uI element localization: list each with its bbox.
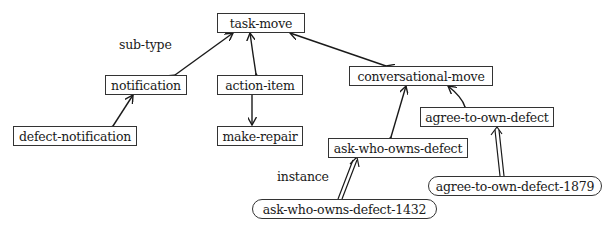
node-task-move[interactable]: task-move xyxy=(217,13,305,33)
edge-instance-1879 xyxy=(495,130,504,176)
edge-instance-1432 xyxy=(338,160,357,199)
subtype-label: sub-type xyxy=(119,37,172,52)
node-make-repair[interactable]: make-repair xyxy=(217,126,303,146)
edge-defect-notification-notification xyxy=(113,95,133,126)
node-notification[interactable]: notification xyxy=(105,75,187,95)
node-ask-who-owns-defect[interactable]: ask-who-owns-defect xyxy=(328,138,468,158)
node-action-item[interactable]: action-item xyxy=(217,75,303,95)
edge-conversational-move-task-move xyxy=(290,33,386,66)
node-agree-to-own-defect[interactable]: agree-to-own-defect xyxy=(420,107,554,127)
edge-action-item-task-move xyxy=(250,33,256,74)
node-conversational-move[interactable]: conversational-move xyxy=(349,66,493,86)
edge-agree-to-own-defect-conversational-move xyxy=(448,86,465,107)
edge-ask-who-owns-defect-conversational-move xyxy=(391,86,406,137)
node-defect-notification[interactable]: defect-notification xyxy=(13,126,137,146)
edge-notification-task-move xyxy=(175,33,233,75)
node-agree-to-own-defect-1879[interactable]: agree-to-own-defect-1879 xyxy=(428,176,602,196)
instance-label: instance xyxy=(277,169,329,184)
node-ask-who-owns-defect-1432[interactable]: ask-who-owns-defect-1432 xyxy=(252,199,437,219)
